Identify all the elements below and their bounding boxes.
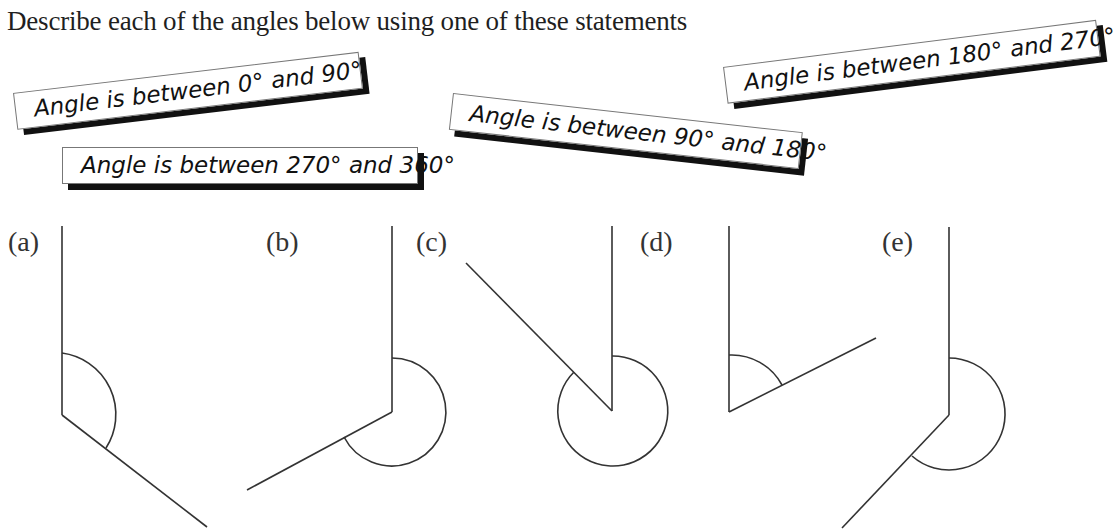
angle-diagram-a — [62, 226, 207, 527]
angle-diagram-e — [842, 227, 1005, 528]
angle-diagram-d — [729, 226, 876, 412]
angle-diagram-c — [466, 226, 668, 466]
angle-diagram-b — [247, 226, 446, 490]
